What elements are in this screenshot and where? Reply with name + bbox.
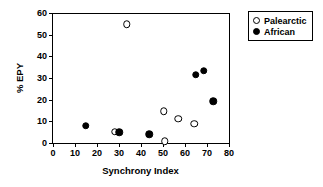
legend-item-african: African — [253, 26, 307, 37]
x-axis-tick — [185, 143, 186, 147]
data-point-african — [192, 71, 200, 79]
x-axis-tick-label: 60 — [180, 148, 190, 158]
y-axis-tick — [49, 121, 53, 122]
x-axis-tick — [119, 143, 120, 147]
x-axis-tick — [141, 143, 142, 147]
y-axis-tick — [49, 35, 53, 36]
legend-item-label: Palearctic — [264, 16, 307, 26]
x-axis-tick — [53, 143, 54, 147]
x-axis-tick — [75, 143, 76, 147]
y-axis-tick-label: 30 — [37, 73, 47, 83]
data-point-african — [200, 67, 208, 75]
data-point-palearctic — [191, 120, 199, 128]
y-axis-tick — [49, 13, 53, 14]
x-axis-tick-label: 40 — [136, 148, 146, 158]
open-circle-icon — [253, 17, 260, 24]
data-point-african — [82, 122, 90, 130]
y-axis-tick — [49, 56, 53, 57]
filled-circle-icon — [253, 28, 260, 35]
data-point-palearctic — [161, 137, 169, 145]
x-axis-tick-label: 20 — [92, 148, 102, 158]
x-axis-tick-label: 30 — [114, 148, 124, 158]
y-axis-title: % EPY — [14, 63, 25, 93]
legend-item-palearctic: Palearctic — [253, 15, 307, 26]
data-point-palearctic — [175, 115, 183, 123]
y-axis-tick — [49, 100, 53, 101]
y-axis-tick-label: 20 — [37, 95, 47, 105]
x-axis-tick — [97, 143, 98, 147]
data-point-palearctic — [123, 21, 131, 29]
x-axis-tick-label: 80 — [224, 148, 234, 158]
plot-area: 010203040506001020304050607080 — [52, 13, 229, 144]
x-axis-tick — [207, 143, 208, 147]
y-axis-tick-label: 10 — [37, 116, 47, 126]
data-point-african — [115, 128, 123, 136]
y-axis-tick-label: 60 — [37, 8, 47, 18]
x-axis-tick-label: 70 — [202, 148, 212, 158]
data-point-palearctic — [160, 108, 168, 116]
x-axis-title: Synchrony Index — [52, 165, 229, 176]
x-axis-tick-label: 10 — [70, 148, 80, 158]
x-axis-tick — [229, 143, 230, 147]
y-axis-tick-label: 40 — [37, 51, 47, 61]
x-axis-tick-label: 0 — [50, 148, 55, 158]
y-axis-tick-label: 0 — [42, 138, 47, 148]
legend-item-label: African — [264, 27, 295, 37]
data-point-african — [209, 97, 217, 105]
data-point-african — [146, 130, 154, 138]
scatter-plot-figure: 010203040506001020304050607080 % EPY Syn… — [0, 0, 323, 187]
y-axis-tick — [49, 78, 53, 79]
legend: PalearcticAfrican — [248, 11, 313, 41]
x-axis-tick-label: 50 — [158, 148, 168, 158]
y-axis-tick-label: 50 — [37, 30, 47, 40]
